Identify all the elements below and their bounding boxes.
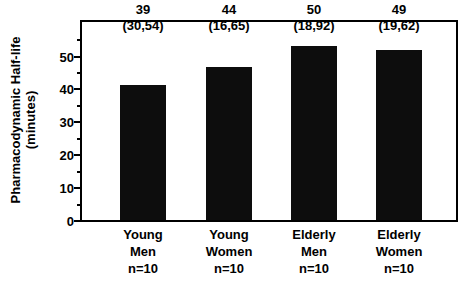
bar-chart-figure: Pharmacodynamic Half-life (minutes) 0 10… xyxy=(0,0,474,282)
category-label-elderly-women: Elderly Women n=10 xyxy=(376,226,423,277)
bar-value-young-women: 44 xyxy=(208,2,249,18)
category-label-young-men: Young Men n=10 xyxy=(123,226,162,277)
category-label-young-women: Young Women n=10 xyxy=(206,226,253,277)
category-young-women-line-3: n=10 xyxy=(206,260,253,277)
bar-annotation-elderly-men: 50 (18,92) xyxy=(293,2,334,34)
category-elderly-men-line-2: Men xyxy=(292,243,335,260)
bar-range-young-men: (30,54) xyxy=(122,18,163,34)
category-elderly-women-line-1: Elderly xyxy=(376,226,423,243)
category-label-elderly-men: Elderly Men n=10 xyxy=(292,226,335,277)
bar-young-men[interactable] xyxy=(120,85,166,220)
bar-young-women[interactable] xyxy=(206,67,252,220)
category-elderly-men-line-1: Elderly xyxy=(292,226,335,243)
bar-range-elderly-men: (18,92) xyxy=(293,18,334,34)
bar-annotation-elderly-women: 49 (19,62) xyxy=(378,2,419,34)
category-young-men-line-2: Men xyxy=(123,243,162,260)
category-elderly-women-line-2: Women xyxy=(376,243,423,260)
category-young-men-line-3: n=10 xyxy=(123,260,162,277)
bar-value-elderly-women: 49 xyxy=(378,2,419,18)
bar-value-young-men: 39 xyxy=(122,2,163,18)
bar-range-young-women: (16,65) xyxy=(208,18,249,34)
bar-elderly-men[interactable] xyxy=(291,46,337,220)
bar-elderly-women[interactable] xyxy=(376,50,422,220)
category-young-women-line-2: Women xyxy=(206,243,253,260)
plot-frame xyxy=(80,20,458,222)
category-elderly-men-line-3: n=10 xyxy=(292,260,335,277)
category-young-women-line-1: Young xyxy=(206,226,253,243)
bar-annotation-young-men: 39 (30,54) xyxy=(122,2,163,34)
category-young-men-line-1: Young xyxy=(123,226,162,243)
bar-value-elderly-men: 50 xyxy=(293,2,334,18)
bar-range-elderly-women: (19,62) xyxy=(378,18,419,34)
category-elderly-women-line-3: n=10 xyxy=(376,260,423,277)
bar-annotation-young-women: 44 (16,65) xyxy=(208,2,249,34)
plot-area xyxy=(82,22,456,220)
